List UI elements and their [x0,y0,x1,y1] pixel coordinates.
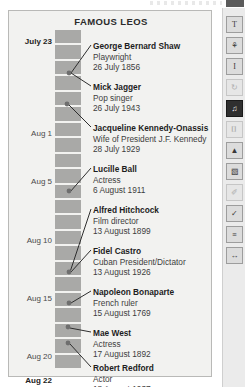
person-entry: Mae WestActress17 August 1892 [93,328,217,360]
shape-tool-icon[interactable]: ▧ [226,163,243,180]
person-entry: Alfred HitchcockFilm director13 August 1… [93,205,217,237]
date-axis-label: Aug 20 [9,352,52,361]
person-role: Wife of President J.F. Kennedy [93,134,217,145]
image-tool-icon[interactable]: ▲ [226,142,243,159]
timeline-tick [55,92,81,107]
right-toolbar[interactable]: T⚘I↻♫⌷▲▧✐✓≡↔ [222,8,245,387]
scan-artifact-block [226,0,244,7]
person-name: Jacqueline Kennedy-Onassis [93,123,217,134]
scan-artifact-strip [150,1,222,5]
text-frame-tool-icon[interactable]: I [226,58,243,75]
person-role: Cuban President/Dictator [93,257,217,268]
page-title: FAMOUS LEOS [9,16,213,27]
person-role: Film director [93,216,217,227]
page-canvas: FAMOUS LEOS July 23Aug 1Aug 5Aug 10Aug 1… [0,0,245,387]
person-name: Lucille Ball [93,164,217,175]
timeline-tick [55,61,81,76]
person-name: Alfred Hitchcock [93,205,217,216]
refresh-tool-icon[interactable]: ↻ [226,79,243,96]
person-name: Fidel Castro [93,246,217,257]
timeline-tick [55,200,81,215]
date-axis-label: Aug 1 [9,129,52,138]
person-name: Napoleon Bonaparte [93,287,217,298]
person-name: Robert Redford [93,363,217,374]
timeline-tick [55,246,81,261]
person-birthdate: 13 August 1899 [93,226,217,237]
person-role: Actress [93,339,217,350]
timeline-tick [55,169,81,184]
date-axis-label: Aug 22 [9,376,52,385]
date-axis-label: Aug 15 [9,294,52,303]
text-tool-icon[interactable]: T [226,16,243,33]
person-birthdate: 6 August 1911 [93,185,217,196]
person-birthdate: 17 August 1892 [93,349,217,360]
person-entry: Napoleon BonaparteFrench ruler15 August … [93,287,217,319]
resize-tool-icon[interactable]: ↔ [226,247,243,264]
person-birthdate: 28 July 1929 [93,144,217,155]
famous-leos-figure: FAMOUS LEOS July 23Aug 1Aug 5Aug 10Aug 1… [8,10,212,377]
person-role: French ruler [93,298,217,309]
chart-tool-icon[interactable]: ♫ [226,100,243,117]
timeline-tick [55,138,81,153]
person-role: Actress [93,175,217,186]
person-birthdate: 26 July 1943 [93,103,217,114]
timeline-tick [55,339,81,354]
timeline-tick [55,185,81,200]
timeline-tick [55,76,81,91]
person-name: George Bernard Shaw [93,41,217,52]
timeline-tick [55,324,81,339]
person-entry: Mick JaggerPop singer26 July 1943 [93,82,217,114]
timeline-tick [55,107,81,122]
fill-tool-icon[interactable]: ⚘ [226,37,243,54]
timeline-tick [55,45,81,60]
date-axis-label: Aug 10 [9,236,52,245]
timeline-tick [55,154,81,169]
person-entry: Jacqueline Kennedy-OnassisWife of Presid… [93,123,217,155]
timeline-bar [55,30,81,370]
person-entry: Robert RedfordActor18 August 1937 [93,363,217,387]
person-name: Mae West [93,328,217,339]
timeline-tick [55,123,81,138]
timeline-tick [55,231,81,246]
timeline-tick [55,293,81,308]
person-role: Actor [93,374,217,385]
person-entry: Lucille BallActress6 August 1911 [93,164,217,196]
timeline-tick [55,262,81,277]
person-birthdate: 15 August 1769 [93,308,217,319]
person-entry: George Bernard ShawPlaywright26 July 185… [93,41,217,73]
person-entry: Fidel CastroCuban President/Dictator13 A… [93,246,217,278]
note-tool-icon[interactable]: ≡ [226,226,243,243]
check-tool-icon[interactable]: ✓ [226,205,243,222]
timeline-tick [55,308,81,323]
pencil-tool-icon[interactable]: ✐ [226,184,243,201]
person-name: Mick Jagger [93,82,217,93]
person-role: Playwright [93,52,217,63]
timeline-tick [55,277,81,292]
person-birthdate: 26 July 1856 [93,62,217,73]
table-tool-icon[interactable]: ⌷ [226,121,243,138]
date-axis-label: Aug 5 [9,177,52,186]
timeline-tick [55,30,81,45]
person-birthdate: 13 August 1926 [93,267,217,278]
person-role: Pop singer [93,93,217,104]
timeline-tick [55,215,81,230]
timeline-tick [55,355,81,370]
date-axis-label: July 23 [9,37,52,46]
